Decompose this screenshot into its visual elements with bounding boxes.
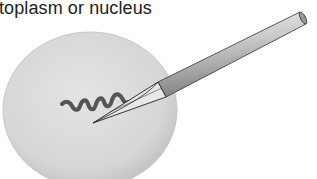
injection-needle xyxy=(158,12,306,97)
microinjection-diagram xyxy=(0,0,317,179)
